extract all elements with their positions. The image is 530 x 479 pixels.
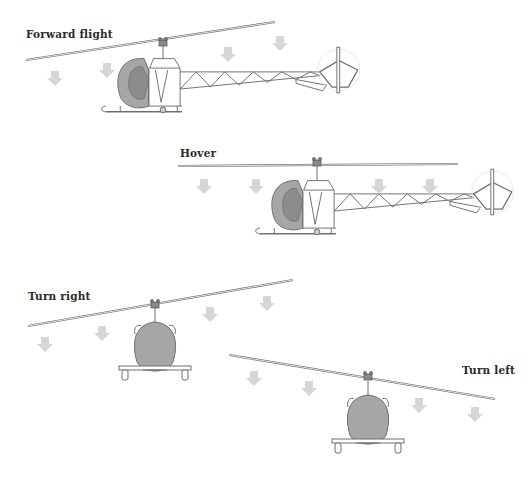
label-turn-right: Turn right — [28, 290, 91, 302]
helicopter-front-view — [119, 308, 191, 380]
label-forward-flight: Forward flight — [26, 28, 113, 40]
helicopter-front-view — [332, 381, 404, 453]
diagram-canvas — [0, 0, 530, 479]
panel-hover — [178, 158, 514, 235]
helicopter-side-view — [256, 169, 514, 235]
main-rotor-blade — [28, 280, 293, 326]
main-rotor-blade — [229, 355, 495, 399]
label-hover: Hover — [180, 147, 216, 159]
rotor-hub-icon — [364, 372, 373, 381]
label-turn-left: Turn left — [462, 364, 515, 376]
panel-turn-left — [229, 355, 495, 453]
rotor-hub-icon — [151, 300, 160, 309]
rotor-hub-icon — [313, 158, 322, 167]
